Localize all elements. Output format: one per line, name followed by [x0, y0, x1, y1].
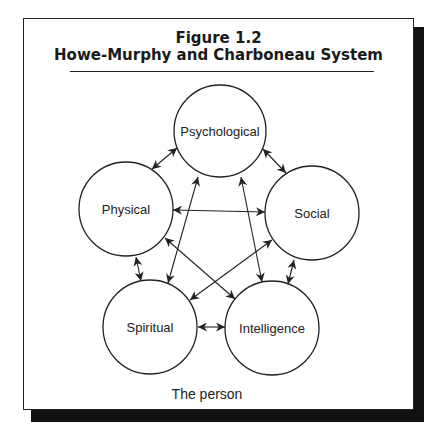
edge-physical-social — [173, 210, 265, 212]
edge-physical-spiritual — [136, 257, 141, 281]
figure-caption: The person — [172, 386, 243, 402]
edge-physical-psychological — [152, 148, 177, 169]
label-spiritual: Spiritual — [127, 320, 174, 335]
label-psychological: Psychological — [180, 124, 260, 139]
label-physical: Physical — [102, 202, 151, 217]
edge-psychological-social — [263, 149, 286, 173]
label-intelligence: Intelligence — [239, 321, 305, 336]
edge-psychological-intelligence — [241, 177, 262, 282]
label-social: Social — [294, 206, 330, 221]
edge-psychological-spiritual — [168, 177, 198, 283]
edge-social-intelligence — [288, 260, 294, 284]
system-diagram: Psychological Physical Social Spiritual … — [0, 0, 440, 439]
